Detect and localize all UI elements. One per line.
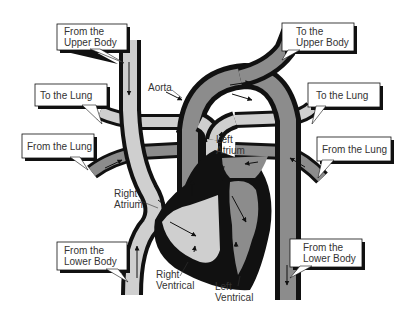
svg-text:To the: To the <box>296 26 324 37</box>
svg-text:Left: Left <box>216 134 233 145</box>
svg-text:Aorta: Aorta <box>148 82 172 93</box>
svg-text:Left: Left <box>215 281 232 292</box>
svg-text:Right: Right <box>156 269 180 280</box>
svg-text:Atrium: Atrium <box>216 145 245 156</box>
svg-text:To the Lung: To the Lung <box>316 90 368 101</box>
svg-text:From the Lung: From the Lung <box>27 141 92 152</box>
callout-to-lung-left: To the Lung <box>35 84 110 124</box>
svg-text:From the: From the <box>303 242 343 253</box>
svg-text:Ventrical: Ventrical <box>156 280 194 291</box>
svg-text:Upper Body: Upper Body <box>296 37 349 48</box>
svg-text:Ventrical: Ventrical <box>215 292 253 303</box>
vena-cava <box>130 40 155 295</box>
callout-from-lung-left: From the Lung <box>22 134 97 170</box>
label-aorta: Aorta <box>148 82 182 98</box>
svg-text:Atrium: Atrium <box>114 199 143 210</box>
svg-text:From the Lung: From the Lung <box>322 144 387 155</box>
svg-text:From the: From the <box>64 26 104 37</box>
callout-from-lower-body-left: From the Lower Body <box>57 242 130 282</box>
heart-circulation-diagram: From the Upper Body To the Upper Body To… <box>0 0 412 314</box>
callout-to-lung-right: To the Lung <box>308 83 383 124</box>
svg-text:To the Lung: To the Lung <box>40 90 92 101</box>
callout-from-lower-body-right: From the Lower Body <box>290 239 365 278</box>
svg-text:Upper Body: Upper Body <box>64 37 117 48</box>
svg-text:Right: Right <box>114 188 138 199</box>
svg-text:Lower Body: Lower Body <box>64 256 117 267</box>
svg-text:From the: From the <box>64 245 104 256</box>
label-left-atrium: Left Atrium <box>216 134 245 156</box>
callout-from-lung-right: From the Lung <box>317 137 394 178</box>
svg-text:Lower Body: Lower Body <box>303 253 356 264</box>
